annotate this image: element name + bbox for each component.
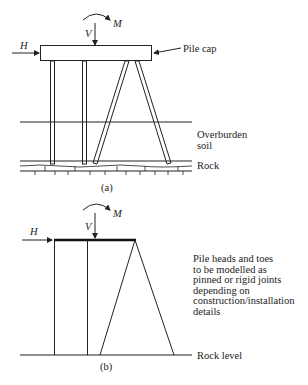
raked-pile-1 [93,61,129,164]
rock-wavy-line [20,165,192,167]
caption-a: (a) [101,182,113,194]
rock-label: Rock [197,160,220,171]
overburden-label-line2: soil [197,140,212,151]
modelling-note: Pile heads and toes to be modelled as pi… [193,253,297,317]
pile-group-diagram: H V M Pile cap Overburden soil [0,0,308,385]
raked-pile-2 [135,61,171,164]
figure-a: H V M Pile cap Overburden soil [12,14,248,194]
horizontal-force-label-b: H [29,226,39,237]
figure-b: H V M Pile heads and toes to be modelled… [20,204,297,373]
pile-cap-pointer [154,48,181,53]
vertical-pile-1 [51,61,55,164]
moment-label-b: M [112,208,123,219]
moment-arrow [83,14,110,20]
moment-label: M [112,18,123,29]
caption-b: (b) [100,361,113,373]
raked-pile-line-1 [100,240,135,355]
pile-cap [41,46,152,61]
rock-level-label: Rock level [197,350,242,361]
pile-cap-label: Pile cap [183,43,217,54]
vertical-force-label: V [85,28,93,39]
raked-pile-line-2 [135,240,174,355]
vertical-pile-2 [83,61,87,164]
moment-arrow-b [83,204,110,210]
overburden-label-line1: Overburden [197,129,248,140]
vertical-force-label-b: V [85,221,93,232]
horizontal-force-label: H [19,40,29,51]
